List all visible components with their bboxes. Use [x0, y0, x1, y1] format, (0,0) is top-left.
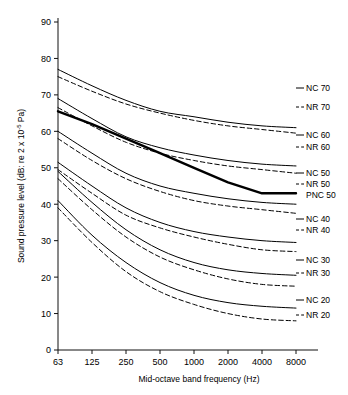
- x-axis-title: Mid-octave band frequency (Hz): [139, 374, 260, 384]
- curve-label-text: PNC 50: [306, 190, 336, 200]
- curve-label-text: NC 40: [306, 214, 330, 224]
- curve-label-nc-40: NC 40: [296, 214, 330, 224]
- x-tick-label: 250: [118, 357, 133, 367]
- y-tick-label: 10: [41, 309, 51, 319]
- curve-label-text: NR 20: [306, 310, 330, 320]
- curve-label-text: NC 30: [306, 255, 330, 265]
- y-tick-label: 40: [41, 200, 51, 210]
- curve-label-text: NR 40: [306, 225, 330, 235]
- curve-pnc-50: [58, 111, 296, 193]
- curve-label-nr-20: NR 20: [296, 310, 330, 320]
- curve-label-nc-30: NC 30: [296, 255, 330, 265]
- curve-label-nr-50: NR 50: [296, 179, 330, 189]
- x-tick-label: 4000: [252, 357, 272, 367]
- x-tick-label: 1000: [184, 357, 204, 367]
- x-tick-label: 8000: [286, 357, 306, 367]
- x-tick-label: 500: [152, 357, 167, 367]
- curve-label-text: NC 20: [306, 295, 330, 305]
- chart-canvas: 0102030405060708090631252505001000200040…: [0, 0, 348, 395]
- y-tick-label: 20: [41, 273, 51, 283]
- curve-label-nc-60: NC 60: [296, 130, 330, 140]
- curve-nc-20: [58, 201, 296, 309]
- noise-criteria-chart: 0102030405060708090631252505001000200040…: [0, 0, 348, 395]
- y-tick-label: 60: [41, 127, 51, 137]
- y-tick-label: 30: [41, 236, 51, 246]
- axes: 0102030405060708090631252505001000200040…: [41, 17, 318, 366]
- curve-label-text: NR 70: [306, 102, 330, 112]
- x-tick-label: 2000: [218, 357, 238, 367]
- curve-label-nr-60: NR 60: [296, 142, 330, 152]
- curve-label-text: NC 50: [306, 168, 330, 178]
- curve-label-text: NC 70: [306, 83, 330, 93]
- curve-label-text: NC 60: [306, 130, 330, 140]
- curve-nc-70: [58, 69, 296, 127]
- axis-titles: Mid-octave band frequency (Hz)Sound pres…: [16, 109, 260, 384]
- curve-label-nr-30: NR 30: [296, 268, 330, 278]
- curve-label-nc-50: NC 50: [296, 168, 330, 178]
- curve-label-text: NR 60: [306, 142, 330, 152]
- curve-label-nr-70: NR 70: [296, 102, 330, 112]
- curve-label-group: NC 70NR 70NC 60NR 60NC 50NR 50PNC 50NC 4…: [296, 83, 336, 320]
- curve-label-text: NR 30: [306, 268, 330, 278]
- y-tick-label: 50: [41, 163, 51, 173]
- y-tick-label: 90: [41, 17, 51, 27]
- x-tick-label: 63: [53, 357, 63, 367]
- y-tick-label: 80: [41, 54, 51, 64]
- curve-label-nc-70: NC 70: [296, 83, 330, 93]
- curve-nc-60: [58, 99, 296, 166]
- y-tick-label: 70: [41, 90, 51, 100]
- curve-label-pnc-50: PNC 50: [306, 190, 336, 200]
- curve-label-nc-20: NC 20: [296, 295, 330, 305]
- x-tick-label: 125: [84, 357, 99, 367]
- y-axis-title: Sound pressure level (dB: re 2 x 10-5 Pa…: [16, 109, 26, 263]
- curve-label-text: NR 50: [306, 179, 330, 189]
- curve-label-nr-40: NR 40: [296, 225, 330, 235]
- curve-series: [58, 69, 296, 320]
- y-tick-label: 0: [46, 345, 51, 355]
